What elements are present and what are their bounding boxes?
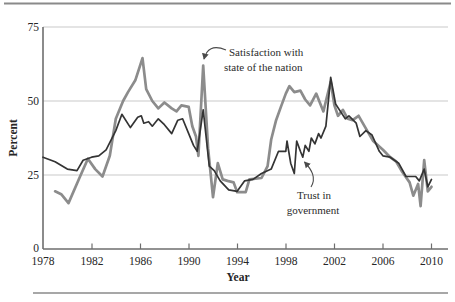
satisfaction-annotation-arrow <box>204 48 226 59</box>
line-chart: 75 50 25 0 1978 1982 1986 1990 1994 1998… <box>0 0 455 302</box>
x-axis-label: Year <box>227 271 250 283</box>
x-tick-label-1994: 1994 <box>226 255 249 267</box>
x-tick-label-2010: 2010 <box>420 255 443 267</box>
x-tick-marks <box>92 244 432 250</box>
x-tick-label-2002: 2002 <box>323 255 346 267</box>
y-tick-label-0: 0 <box>33 242 39 254</box>
y-tick-label-25: 25 <box>28 169 40 181</box>
y-tick-label-50: 50 <box>28 95 40 107</box>
figure-container: 75 50 25 0 1978 1982 1986 1990 1994 1998… <box>0 0 455 302</box>
satisfaction-annotation-line1: Satisfaction with <box>229 46 304 58</box>
trust-annotation-line2: government <box>287 204 340 216</box>
x-tick-label-1982: 1982 <box>81 255 104 267</box>
x-tick-label-2006: 2006 <box>372 255 395 267</box>
y-tick-label-75: 75 <box>28 21 40 33</box>
x-tick-label-1990: 1990 <box>178 255 201 267</box>
y-axis-label: Percent <box>7 119 19 157</box>
trust-annotation-line1: Trust in <box>297 189 332 201</box>
satisfaction-annotation-line2: state of the nation <box>224 61 303 73</box>
x-tick-label-1998: 1998 <box>275 255 298 267</box>
x-tick-label-1986: 1986 <box>129 255 152 267</box>
x-tick-label-1978: 1978 <box>32 255 55 267</box>
